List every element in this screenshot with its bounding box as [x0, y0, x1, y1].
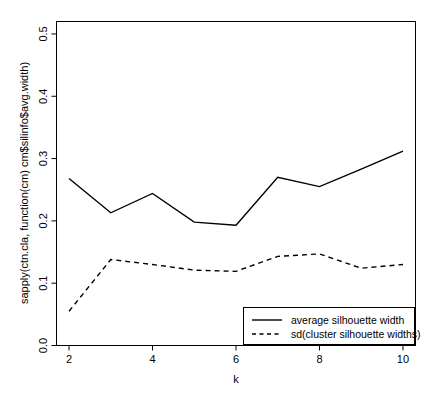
y-axis-title: sapply(ctn.cla, function(cm) cm$silinfo$…: [18, 62, 30, 304]
series-sd-cluster-silhouette-widths: [69, 254, 403, 311]
x-axis-ticks: 246810: [66, 346, 409, 365]
y-tick-label: 0.3: [37, 151, 49, 166]
chart-container: 0.00.10.20.30.40.5 246810 sapply(ctn.cla…: [0, 0, 433, 399]
legend-label-sd-cluster-silhouette-widths: sd(cluster silhouette widths): [291, 328, 421, 340]
legend: average silhouette width sd(cluster silh…: [244, 308, 421, 345]
plot-frame: [57, 22, 416, 346]
y-tick-label: 0.4: [37, 89, 49, 104]
legend-label-average-silhouette-width: average silhouette width: [291, 314, 404, 326]
y-tick-label: 0.0: [37, 338, 49, 353]
y-tick-label: 0.2: [37, 213, 49, 228]
y-tick-label: 0.5: [37, 26, 49, 41]
x-axis-title: k: [233, 373, 239, 385]
series-average-silhouette-width: [69, 151, 403, 225]
y-axis-ticks: 0.00.10.20.30.40.5: [37, 26, 56, 353]
x-tick-label: 6: [233, 353, 239, 365]
x-tick-label: 2: [66, 353, 72, 365]
line-chart: 0.00.10.20.30.40.5 246810 sapply(ctn.cla…: [0, 0, 433, 399]
x-tick-label: 4: [149, 353, 155, 365]
y-tick-label: 0.1: [37, 276, 49, 291]
x-tick-label: 8: [316, 353, 322, 365]
x-tick-label: 10: [397, 353, 409, 365]
